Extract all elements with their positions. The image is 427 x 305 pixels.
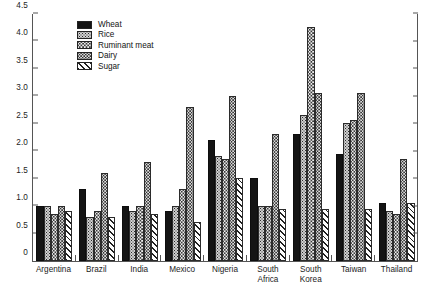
- y-axis-tick-label: 3.5: [16, 55, 33, 64]
- bar-sugar-south-africa: [279, 209, 286, 261]
- bar-dairy-nigeria: [229, 96, 236, 261]
- bar-dairy-brazil: [101, 173, 108, 261]
- bar-ruminant-meat-india: [136, 206, 143, 261]
- bar-wheat-mexico: [165, 211, 172, 261]
- bar-group-south-korea: [290, 14, 333, 261]
- bar-ruminant-meat-mexico: [179, 189, 186, 261]
- y-axis-tick-mark-right: [413, 123, 418, 124]
- y-axis-tick-label: 2.0: [16, 138, 33, 147]
- bar-rice-south-africa: [258, 206, 265, 261]
- bar-dairy-thailand: [400, 159, 407, 261]
- bar-sugar-brazil: [108, 217, 115, 261]
- bar-rice-nigeria: [215, 156, 222, 261]
- y-axis-tick-label: 0.5: [16, 220, 33, 229]
- bar-group-india: [119, 14, 162, 261]
- bar-wheat-argentina: [36, 206, 43, 261]
- bar-group-brazil: [76, 14, 119, 261]
- bar-rice-south-korea: [300, 115, 307, 261]
- bar-group-thailand: [375, 14, 418, 261]
- plot-area: 00.51.01.52.02.53.03.54.04.5: [32, 14, 418, 262]
- y-axis-tick-mark-right: [413, 68, 418, 69]
- bar-rice-argentina: [44, 206, 51, 261]
- x-axis-label-nigeria: Nigeria: [204, 265, 247, 284]
- bar-ruminant-meat-brazil: [94, 211, 101, 261]
- x-axis-label-argentina: Argentina: [32, 265, 75, 284]
- bar-wheat-nigeria: [208, 140, 215, 261]
- bar-groups: [33, 14, 418, 261]
- y-axis-tick-label: 3.0: [16, 83, 33, 92]
- y-axis-tick-mark-right: [413, 233, 418, 234]
- y-axis-tick-mark-right: [413, 95, 418, 96]
- bar-rice-mexico: [172, 206, 179, 261]
- x-axis-label-brazil: Brazil: [75, 265, 118, 284]
- bar-wheat-thailand: [379, 203, 386, 261]
- x-axis-label-south-korea: South Korea: [289, 265, 332, 284]
- bar-rice-brazil: [86, 217, 93, 261]
- bar-ruminant-meat-taiwan: [350, 120, 357, 261]
- x-axis-labels: ArgentinaBrazilIndiaMexicoNigeriaSouth A…: [32, 265, 418, 284]
- y-axis-right: [417, 14, 418, 262]
- bar-ruminant-meat-south-africa: [265, 206, 272, 261]
- y-axis-tick-label: 2.5: [16, 110, 33, 119]
- bar-dairy-india: [144, 162, 151, 261]
- bar-sugar-nigeria: [236, 178, 243, 261]
- bar-sugar-argentina: [65, 211, 72, 261]
- bar-rice-taiwan: [343, 123, 350, 261]
- bar-ruminant-meat-argentina: [51, 214, 58, 261]
- y-axis-tick-label: 4.5: [16, 1, 33, 10]
- x-axis-label-taiwan: Taiwan: [332, 265, 375, 284]
- y-axis-tick-label: 0: [23, 248, 33, 257]
- bar-ruminant-meat-nigeria: [222, 159, 229, 261]
- bar-wheat-india: [122, 206, 129, 261]
- bar-chart: Wheat Rice Ruminant meat Dairy Sugar 00.…: [0, 0, 427, 305]
- y-axis-tick-mark-right: [413, 150, 418, 151]
- bar-group-south-africa: [247, 14, 290, 261]
- y-axis-tick-mark-right: [413, 40, 418, 41]
- x-axis-label-mexico: Mexico: [161, 265, 204, 284]
- y-axis-tick-label: 1.0: [16, 193, 33, 202]
- x-axis-label-india: India: [118, 265, 161, 284]
- bar-sugar-mexico: [194, 222, 201, 261]
- bar-sugar-taiwan: [365, 209, 372, 261]
- bar-ruminant-meat-thailand: [393, 214, 400, 261]
- y-axis-tick-mark-right: [413, 13, 418, 14]
- bar-ruminant-meat-south-korea: [307, 27, 314, 261]
- x-axis-label-south-africa: South Africa: [246, 265, 289, 284]
- y-axis-tick-label: 1.5: [16, 165, 33, 174]
- y-axis-tick-label: 4.0: [16, 28, 33, 37]
- bar-wheat-south-africa: [250, 178, 257, 261]
- bar-sugar-india: [151, 214, 158, 261]
- bar-dairy-south-africa: [272, 134, 279, 261]
- y-axis-tick-mark-right: [413, 205, 418, 206]
- bar-group-nigeria: [204, 14, 247, 261]
- bar-dairy-argentina: [58, 206, 65, 261]
- y-axis-tick-mark-right: [413, 178, 418, 179]
- x-axis-label-thailand: Thailand: [375, 265, 418, 284]
- bar-wheat-brazil: [79, 189, 86, 261]
- bar-sugar-south-korea: [322, 209, 329, 261]
- bar-dairy-taiwan: [357, 93, 364, 261]
- bar-rice-thailand: [386, 211, 393, 261]
- bar-wheat-south-korea: [293, 134, 300, 261]
- bar-group-argentina: [33, 14, 76, 261]
- bar-dairy-mexico: [186, 107, 193, 261]
- bar-group-taiwan: [332, 14, 375, 261]
- bar-group-mexico: [161, 14, 204, 261]
- bar-rice-india: [129, 211, 136, 261]
- bar-wheat-taiwan: [336, 154, 343, 261]
- bar-dairy-south-korea: [315, 93, 322, 261]
